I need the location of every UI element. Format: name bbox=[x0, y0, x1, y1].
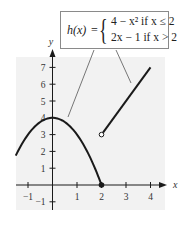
function-name: h(x) bbox=[67, 23, 86, 38]
y-tick-label: 2 bbox=[41, 147, 46, 157]
y-tick-label: −1 bbox=[35, 197, 45, 207]
x-axis-label: x bbox=[172, 179, 178, 190]
case-1: 4 − x² if x ≤ 2 bbox=[111, 15, 175, 27]
x-tick-label: 1 bbox=[75, 192, 80, 202]
x-tick-label: 4 bbox=[148, 192, 153, 202]
open-endpoint-marker bbox=[99, 132, 104, 137]
case-1-expr: 4 − x² bbox=[111, 15, 138, 27]
equals-sign: = bbox=[91, 23, 98, 38]
x-tick-label: −1 bbox=[23, 192, 33, 202]
y-axis-arrow-icon bbox=[50, 49, 56, 57]
y-tick-label: 5 bbox=[41, 97, 46, 107]
formula-box: h(x) = { 4 − x² if x ≤ 2 2x − 1 if x > 2 bbox=[60, 11, 169, 49]
brace-icon: { bbox=[99, 14, 108, 44]
y-tick-label: 3 bbox=[41, 130, 46, 140]
case-2: 2x − 1 if x > 2 bbox=[111, 31, 177, 43]
case-2-expr: 2x − 1 bbox=[111, 31, 141, 43]
case-2-cond: if x > 2 bbox=[143, 31, 177, 43]
y-tick-label: 1 bbox=[41, 164, 46, 174]
x-tick-label: 2 bbox=[99, 192, 104, 202]
x-tick-label: 3 bbox=[124, 192, 129, 202]
plot-background bbox=[16, 57, 165, 210]
y-tick-label: 7 bbox=[41, 63, 46, 73]
case-1-cond: if x ≤ 2 bbox=[141, 15, 174, 27]
y-axis-label: y bbox=[48, 36, 54, 47]
closed-endpoint-marker bbox=[99, 182, 105, 188]
y-tick-label: 6 bbox=[41, 80, 46, 90]
